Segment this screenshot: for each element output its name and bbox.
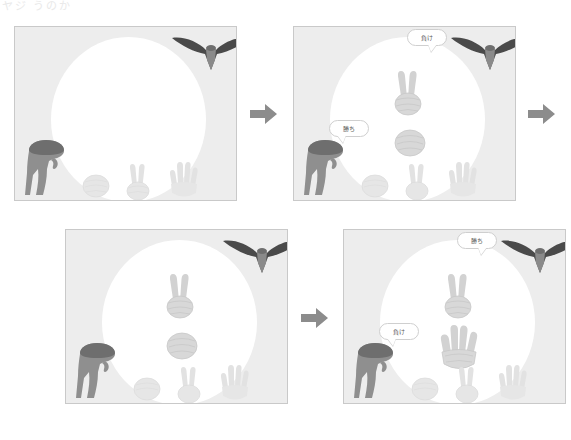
hand-rock-icon <box>360 170 390 200</box>
arrow-right-icon <box>301 307 329 329</box>
comic-strip: ヤジ うのか <box>0 0 571 440</box>
comic-panel-1 <box>14 26 237 201</box>
hand-scissors-icon <box>452 363 482 404</box>
hand-scissors-icon <box>390 67 426 117</box>
hand-scissors-icon <box>174 363 204 404</box>
bubble-tail-icon <box>387 338 396 346</box>
hand-scissors-icon <box>162 270 198 320</box>
speech-bubble-dinosaur: 勝ち <box>329 120 369 137</box>
speech-bubble-pterodactyl: 勝ち <box>457 232 497 249</box>
dinosaur-icon <box>352 338 398 400</box>
hand-rock-icon <box>132 373 162 403</box>
arrow-right-icon <box>250 103 278 125</box>
dinosaur-icon <box>74 338 120 400</box>
speech-bubble-pterodactyl: 負け <box>407 29 447 46</box>
hand-rock-icon <box>81 170 111 200</box>
pterodactyl-icon <box>449 32 516 72</box>
hand-scissors-icon <box>123 160 153 201</box>
hand-scissors-icon <box>402 160 432 201</box>
hand-paper-icon <box>496 363 530 404</box>
pterodactyl-icon <box>221 235 288 275</box>
dinosaur-icon <box>23 135 69 197</box>
speech-bubble-text: 勝ち <box>471 238 483 244</box>
hand-paper-icon <box>167 160 201 201</box>
hand-paper-icon <box>446 160 480 201</box>
hand-paper-icon <box>218 363 252 404</box>
bubble-tail-icon <box>428 44 437 52</box>
speech-bubble-text: 勝ち <box>343 126 355 132</box>
speech-bubble-text: 負け <box>421 35 433 41</box>
comic-panel-3 <box>65 229 288 404</box>
hand-rock-icon <box>165 330 199 362</box>
speech-bubble-text: 負け <box>393 329 405 335</box>
bubble-tail-icon <box>337 135 346 143</box>
cropped-header-text: ヤジ うのか <box>2 0 72 13</box>
pterodactyl-icon <box>499 235 566 275</box>
comic-panel-4: 勝ち 負け <box>343 229 566 404</box>
pterodactyl-icon <box>170 32 237 72</box>
dinosaur-icon <box>302 135 348 197</box>
bubble-tail-icon <box>478 247 487 255</box>
hand-scissors-icon <box>440 270 476 320</box>
hand-rock-icon <box>410 373 440 403</box>
speech-bubble-dinosaur: 負け <box>379 323 419 340</box>
comic-panel-2: 負け 勝ち <box>293 26 516 201</box>
arrow-right-icon <box>528 103 556 125</box>
hand-rock-icon <box>393 127 427 159</box>
